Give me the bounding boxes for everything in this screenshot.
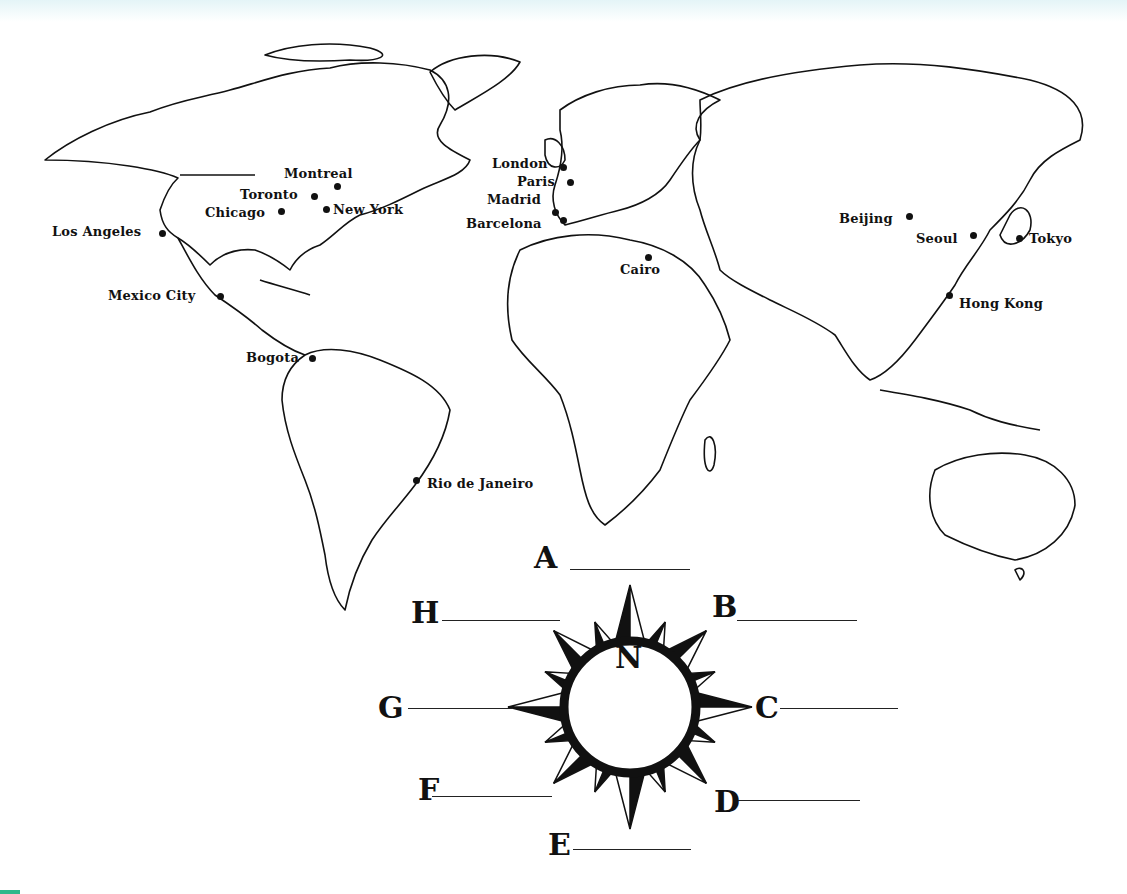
compass-letter-a: A	[534, 543, 557, 573]
compass-letter-e: E	[548, 830, 571, 860]
answer-blank-g[interactable]	[408, 708, 513, 709]
compass-letter-c: C	[755, 693, 779, 723]
answer-blank-f[interactable]	[432, 796, 552, 797]
answer-blank-a[interactable]	[570, 569, 690, 570]
answer-blank-b[interactable]	[737, 620, 857, 621]
compass-letter-g: G	[378, 693, 404, 723]
answer-blank-e[interactable]	[573, 849, 691, 850]
compass-rose	[0, 0, 1127, 894]
compass-letter-b: B	[712, 592, 737, 622]
compass-north-label: N	[615, 640, 642, 675]
compass-letter-h: H	[411, 598, 439, 628]
corner-mark	[0, 890, 20, 894]
compass-letter-d: D	[714, 787, 740, 817]
answer-blank-d[interactable]	[738, 800, 860, 801]
answer-blank-c[interactable]	[780, 708, 898, 709]
answer-blank-h[interactable]	[442, 620, 560, 621]
compass-letter-f: F	[418, 775, 439, 805]
